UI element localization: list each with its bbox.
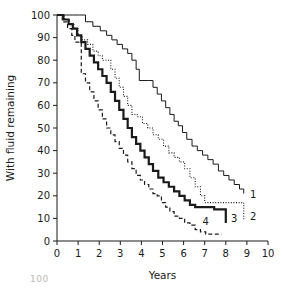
curve-label-4: 4: [202, 216, 208, 227]
y-axis-tick-label: 90: [37, 32, 50, 43]
x-axis-tick-label: 10: [262, 248, 275, 259]
curves-layer: [57, 15, 244, 234]
y-axis-tick-label: 50: [37, 123, 50, 134]
x-axis-tick-label: 7: [202, 248, 208, 259]
x-axis-tick-label: 5: [159, 248, 165, 259]
y-axis-tick-label: 30: [37, 168, 50, 179]
x-axis-tick-label: 0: [54, 248, 60, 259]
curve-label-1: 1: [250, 189, 256, 200]
curve-label-3: 3: [231, 213, 237, 224]
survival-curve-figure: 0102030405060708090100012345678910 1234 …: [0, 0, 282, 288]
survival-curve-4: [57, 15, 222, 234]
y-axis-tick-label: 80: [37, 55, 50, 66]
y-axis-title: With fluid remaining: [4, 75, 16, 181]
x-axis-tick-label: 9: [244, 248, 250, 259]
y-axis-tick-label: 10: [37, 213, 50, 224]
axes-layer: 0102030405060708090100012345678910: [31, 10, 274, 259]
x-axis-tick-label: 4: [138, 248, 144, 259]
x-axis-tick-label: 8: [223, 248, 229, 259]
y-axis-tick-label: 20: [37, 190, 50, 201]
page-artifact-text: 100: [30, 274, 49, 284]
chart-canvas: 0102030405060708090100012345678910 1234 …: [0, 0, 282, 288]
x-axis-tick-label: 2: [96, 248, 102, 259]
x-axis-tick-label: 1: [75, 248, 81, 259]
y-axis-tick-label: 100: [31, 10, 50, 21]
x-axis-tick-label: 3: [117, 248, 123, 259]
curve-label-2: 2: [250, 211, 256, 222]
y-axis-tick-label: 70: [37, 77, 50, 88]
y-axis-tick-label: 40: [37, 145, 50, 156]
y-axis-tick-label: 60: [37, 100, 50, 111]
x-axis-title: Years: [148, 269, 177, 281]
axis-titles-layer: YearsWith fluid remaining: [4, 75, 176, 281]
x-axis-tick-label: 6: [180, 248, 186, 259]
y-axis-tick-label: 0: [44, 236, 50, 247]
